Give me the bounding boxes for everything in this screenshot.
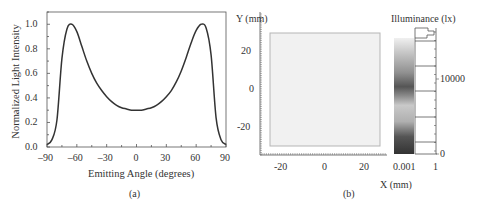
plot-b-xlabel: X (mm) <box>380 179 412 190</box>
plot-a-ytick-label: 0.8 <box>25 43 38 54</box>
panel-b-label: (b) <box>343 188 355 199</box>
colorbar-level-lines <box>415 41 436 142</box>
plot-a-ytick-label: 0.2 <box>25 116 38 127</box>
plot-a-frame <box>47 12 226 147</box>
plot-a-xtick-label: –30 <box>98 152 113 163</box>
plot-b-ytick-0: 0 <box>249 83 254 94</box>
plot-a-xlabel: Emitting Angle (degrees) <box>88 168 194 179</box>
illuminance-map <box>270 33 380 146</box>
plot-b-ytick-20: 20 <box>241 45 251 56</box>
colorbar <box>394 38 414 154</box>
plot-b-xtick-neg20: -20 <box>274 161 287 172</box>
plot-a-xtick-label: 30 <box>160 152 170 163</box>
plot-b-ylabel: Y (mm) <box>236 13 268 24</box>
colorbar-tick-10000: 10000 <box>440 73 465 84</box>
plot-a-xtick-label: –60 <box>68 152 83 163</box>
histogram-tick-1: 1 <box>433 161 438 172</box>
plot-a-xtick-label: 60 <box>190 152 200 163</box>
colorbar-ticks <box>434 32 439 154</box>
colorbar-label: Illuminance (lx) <box>391 13 456 24</box>
plot-a-xtick-label: 90 <box>220 152 230 163</box>
intensity-curve <box>47 24 226 145</box>
plot-b-xtick-0: 0 <box>322 161 327 172</box>
histogram-tick-0001: 0.001 <box>393 161 416 172</box>
colorbar-tick-0: 0 <box>440 148 445 159</box>
panel-a-label: (a) <box>129 188 140 199</box>
plot-a-ytick-label: 0.0 <box>25 141 38 152</box>
plot-a-ylabel: Normalized Light Intensity <box>10 24 21 138</box>
plot-a-xtick-label: 0 <box>134 152 139 163</box>
plot-a-ytick-label: 1.0 <box>25 18 38 29</box>
plot-a-ytick-label: 0.4 <box>25 92 38 103</box>
plot-a-ytick-label: 0.6 <box>25 67 38 78</box>
plot-a-xtick-label: –90 <box>38 152 53 163</box>
plot-b-xtick-20: 20 <box>359 161 369 172</box>
histogram-bars <box>415 28 434 38</box>
plot-a-yticks <box>47 12 50 147</box>
plot-b-ytick-neg20: -20 <box>237 121 250 132</box>
plot-a-xticks <box>47 144 226 147</box>
